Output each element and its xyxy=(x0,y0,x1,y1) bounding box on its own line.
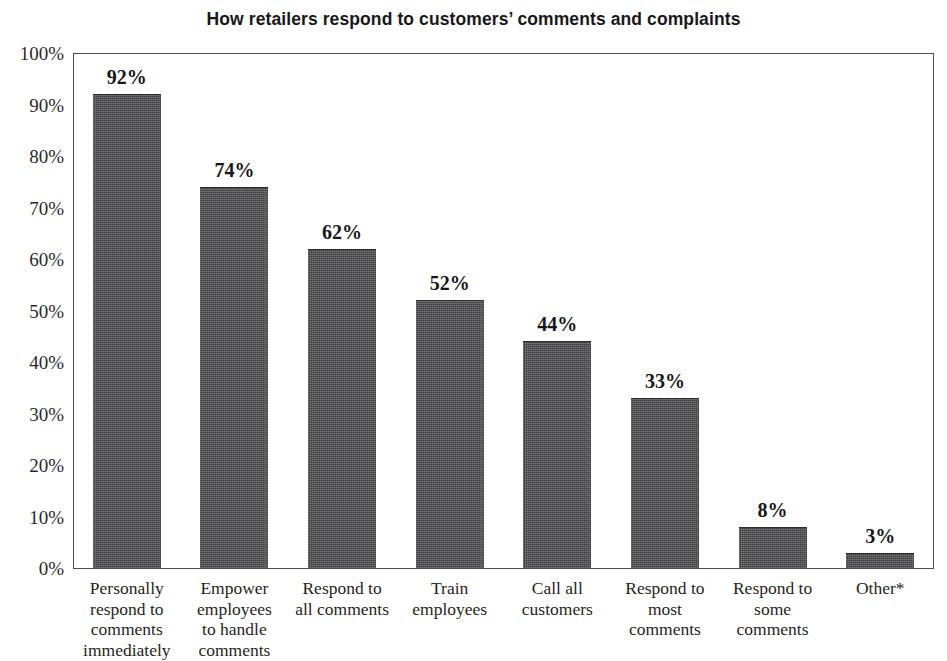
x-category-label: Call allcustomers xyxy=(504,578,612,619)
x-category-label-line: Other* xyxy=(826,578,934,599)
bar xyxy=(416,300,484,568)
bar xyxy=(739,527,807,568)
bar-value-label: 52% xyxy=(390,273,510,293)
x-category-label-line: Empower xyxy=(181,578,289,599)
x-category-label-line: employees xyxy=(396,599,504,620)
x-category-label-line: immediately xyxy=(73,640,181,661)
x-category-label-line: most xyxy=(611,599,719,620)
x-category-label-line: comments xyxy=(73,619,181,640)
bar xyxy=(93,94,161,568)
x-category-label-line: Respond to xyxy=(611,578,719,599)
x-category-label-line: customers xyxy=(504,599,612,620)
bar-value-label: 8% xyxy=(713,500,833,520)
x-category-label-line: comments xyxy=(611,619,719,640)
bar-value-label: 92% xyxy=(67,67,187,87)
x-category-label-line: to handle xyxy=(181,619,289,640)
x-category-label-line: Personally xyxy=(73,578,181,599)
x-category-label-line: Train xyxy=(396,578,504,599)
x-category-label-line: all comments xyxy=(288,599,396,620)
x-category-label-line: respond to xyxy=(73,599,181,620)
x-category-label: Personallyrespond tocommentsimmediately xyxy=(73,578,181,660)
bar-value-label: 62% xyxy=(282,222,402,242)
bar xyxy=(523,341,591,568)
x-category-label-line: some xyxy=(719,599,827,620)
x-category-label: Respond tomostcomments xyxy=(611,578,719,640)
x-category-label-line: Call all xyxy=(504,578,612,599)
x-category-label-line: comments xyxy=(181,640,289,661)
bar xyxy=(200,187,268,568)
bar xyxy=(308,249,376,568)
x-category-label: Empoweremployeesto handlecomments xyxy=(181,578,289,660)
bar-value-label: 33% xyxy=(605,371,725,391)
x-category-label: Respond tosomecomments xyxy=(719,578,827,640)
x-category-label-line: Respond to xyxy=(719,578,827,599)
bar xyxy=(846,553,914,568)
bars-layer: 92%74%62%52%44%33%8%3% xyxy=(0,0,947,661)
bar-value-label: 44% xyxy=(497,314,617,334)
x-axis: Personallyrespond tocommentsimmediatelyE… xyxy=(0,578,947,661)
x-category-label: Other* xyxy=(826,578,934,599)
bar-value-label: 74% xyxy=(174,160,294,180)
bar xyxy=(631,398,699,568)
x-category-label-line: Respond to xyxy=(288,578,396,599)
x-category-label: Trainemployees xyxy=(396,578,504,619)
chart-page: How retailers respond to customers’ comm… xyxy=(0,0,947,661)
bar-value-label: 3% xyxy=(820,526,940,546)
x-category-label-line: comments xyxy=(719,619,827,640)
x-category-label: Respond toall comments xyxy=(288,578,396,619)
x-category-label-line: employees xyxy=(181,599,289,620)
